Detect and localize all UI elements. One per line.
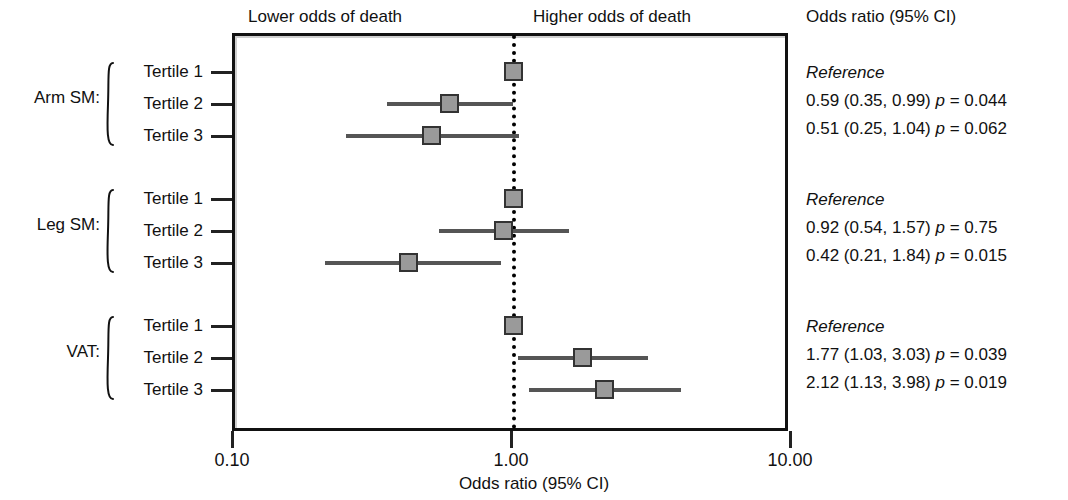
x-axis-tick-label: 0.10 [214, 450, 249, 470]
point-estimate-marker [422, 126, 441, 145]
plot-inner-area [235, 36, 785, 428]
y-axis-tick [211, 389, 232, 392]
point-estimate-marker [573, 348, 592, 367]
group-label: VAT: [4, 343, 100, 360]
odds-ratio-stat: 0.92 (0.54, 1.57) p = 0.75 [806, 219, 997, 236]
category-label: Tertile 2 [111, 349, 203, 366]
odds-ratio-stat: 0.59 (0.35, 0.99) p = 0.044 [806, 92, 1007, 109]
odds-ratio-column-header: Odds ratio (95% CI) [806, 7, 956, 27]
category-label: Tertile 2 [111, 95, 203, 112]
x-axis-tick [510, 431, 513, 448]
category-label: Tertile 1 [111, 317, 203, 334]
category-label: Tertile 2 [111, 222, 203, 239]
y-axis-tick [211, 230, 232, 233]
x-axis-title: Odds ratio (95% CI) [0, 474, 1068, 493]
x-axis-tick-label: 10.00 [767, 450, 812, 470]
y-axis-tick [211, 262, 232, 265]
point-estimate-marker [595, 380, 614, 399]
x-axis-tick [789, 431, 792, 448]
category-label: Tertile 3 [111, 127, 203, 144]
point-estimate-marker [399, 253, 418, 272]
odds-ratio-stat: 0.42 (0.21, 1.84) p = 0.015 [806, 247, 1007, 264]
odds-ratio-stat: 0.51 (0.25, 1.04) p = 0.062 [806, 120, 1007, 137]
point-estimate-marker [504, 316, 523, 335]
reference-stat: Reference [806, 318, 884, 335]
odds-ratio-stat: 2.12 (1.13, 3.98) p = 0.019 [806, 374, 1007, 391]
y-axis-tick [211, 135, 232, 138]
point-estimate-marker [504, 189, 523, 208]
group-label: Arm SM: [4, 89, 100, 106]
point-estimate-marker [440, 94, 459, 113]
point-estimate-marker [504, 62, 523, 81]
lower-odds-of-death-label: Lower odds of death [248, 7, 402, 27]
category-label: Tertile 1 [111, 63, 203, 80]
y-axis-tick [211, 103, 232, 106]
y-axis-tick [211, 71, 232, 74]
x-axis-tick-label: 1.00 [493, 450, 528, 470]
group-label: Leg SM: [4, 216, 100, 233]
higher-odds-of-death-label: Higher odds of death [533, 7, 691, 27]
category-label: Tertile 3 [111, 254, 203, 271]
x-axis-tick [231, 431, 234, 448]
odds-ratio-stat: 1.77 (1.03, 3.03) p = 0.039 [806, 346, 1007, 363]
category-label: Tertile 1 [111, 190, 203, 207]
point-estimate-marker [494, 221, 513, 240]
category-label: Tertile 3 [111, 381, 203, 398]
y-axis-tick [211, 357, 232, 360]
reference-stat: Reference [806, 64, 884, 81]
y-axis-tick [211, 198, 232, 201]
reference-stat: Reference [806, 191, 884, 208]
forest-plot-figure: Lower odds of death Higher odds of death… [0, 0, 1068, 500]
plot-frame [232, 33, 788, 431]
y-axis-tick [211, 325, 232, 328]
